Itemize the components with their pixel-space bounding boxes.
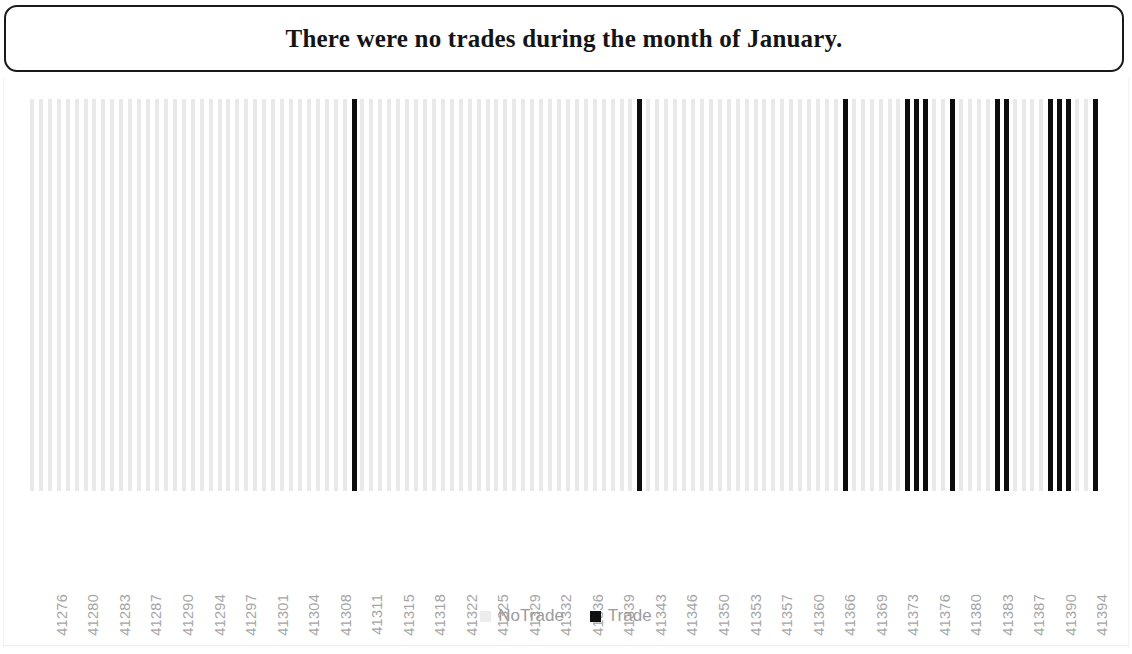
bar-notrade bbox=[932, 99, 936, 491]
bar-notrade bbox=[593, 99, 597, 491]
bar-notrade bbox=[253, 99, 257, 491]
bar-notrade bbox=[226, 99, 230, 491]
bar-notrade bbox=[84, 99, 88, 491]
bar-notrade bbox=[548, 99, 552, 491]
bar-notrade bbox=[736, 99, 740, 491]
bar-notrade bbox=[754, 99, 758, 491]
bar-notrade bbox=[289, 99, 293, 491]
bar-notrade bbox=[780, 99, 784, 491]
bar-notrade bbox=[816, 99, 820, 491]
bar-trade bbox=[637, 99, 642, 491]
bar-notrade bbox=[235, 99, 239, 491]
bar-notrade bbox=[602, 99, 606, 491]
bar-notrade bbox=[48, 99, 52, 491]
bar-notrade bbox=[360, 99, 364, 491]
bar-notrade bbox=[628, 99, 632, 491]
bar-notrade bbox=[727, 99, 731, 491]
bar-notrade bbox=[977, 99, 981, 491]
bar-trade bbox=[843, 99, 848, 491]
bar-notrade bbox=[691, 99, 695, 491]
bar-notrade bbox=[852, 99, 856, 491]
bar-trade bbox=[950, 99, 955, 491]
bar-notrade bbox=[1030, 99, 1034, 491]
legend-swatch-icon bbox=[480, 611, 491, 622]
bar-notrade bbox=[825, 99, 829, 491]
bar-notrade bbox=[486, 99, 490, 491]
bar-notrade bbox=[191, 99, 195, 491]
bar-notrade bbox=[316, 99, 320, 491]
bar-notrade bbox=[137, 99, 141, 491]
bar-notrade bbox=[271, 99, 275, 491]
bar-notrade bbox=[611, 99, 615, 491]
bar-notrade bbox=[807, 99, 811, 491]
bar-notrade bbox=[325, 99, 329, 491]
bar-notrade bbox=[110, 99, 114, 491]
legend-label: NoTrade bbox=[498, 606, 564, 626]
bar-trade bbox=[923, 99, 928, 491]
bar-trade bbox=[995, 99, 1000, 491]
bar-notrade bbox=[101, 99, 105, 491]
bar-notrade bbox=[280, 99, 284, 491]
frame-border-bottom bbox=[3, 645, 1129, 646]
bar-notrade bbox=[762, 99, 766, 491]
bar-trade bbox=[1048, 99, 1053, 491]
frame-border-right bbox=[1128, 78, 1129, 648]
bar-notrade bbox=[771, 99, 775, 491]
bar-notrade bbox=[432, 99, 436, 491]
bar-notrade bbox=[298, 99, 302, 491]
bar-notrade bbox=[92, 99, 96, 491]
bar-notrade bbox=[155, 99, 159, 491]
bar-trade bbox=[905, 99, 910, 491]
bar-notrade bbox=[539, 99, 543, 491]
bar-notrade bbox=[861, 99, 865, 491]
bar-notrade bbox=[459, 99, 463, 491]
bar-notrade bbox=[182, 99, 186, 491]
bar-notrade bbox=[745, 99, 749, 491]
legend-item[interactable]: NoTrade bbox=[480, 606, 564, 626]
chart-title-callout: There were no trades during the month of… bbox=[4, 5, 1124, 72]
bar-notrade bbox=[369, 99, 373, 491]
bar-notrade bbox=[530, 99, 534, 491]
bar-notrade bbox=[646, 99, 650, 491]
bar-notrade bbox=[888, 99, 892, 491]
bar-notrade bbox=[477, 99, 481, 491]
bar-notrade bbox=[119, 99, 123, 491]
bar-trade bbox=[1066, 99, 1071, 491]
chart-legend: NoTradeTrade bbox=[0, 606, 1132, 626]
bar-notrade bbox=[986, 99, 990, 491]
bar-notrade bbox=[682, 99, 686, 491]
bar-notrade bbox=[709, 99, 713, 491]
bar-notrade bbox=[557, 99, 561, 491]
bar-notrade bbox=[343, 99, 347, 491]
bar-notrade bbox=[396, 99, 400, 491]
bar-notrade bbox=[39, 99, 43, 491]
bar-notrade bbox=[655, 99, 659, 491]
bar-trade bbox=[1004, 99, 1009, 491]
bar-notrade bbox=[870, 99, 874, 491]
plot-area bbox=[28, 99, 1100, 491]
bar-notrade bbox=[164, 99, 168, 491]
legend-item[interactable]: Trade bbox=[590, 606, 652, 626]
bar-notrade bbox=[879, 99, 883, 491]
bar-trade bbox=[352, 99, 357, 491]
bar-notrade bbox=[620, 99, 624, 491]
chart-title: There were no trades during the month of… bbox=[286, 25, 843, 53]
bar-notrade bbox=[673, 99, 677, 491]
x-axis-tick-labels: 4127641280412834128741290412944129741301… bbox=[28, 494, 1100, 602]
bar-notrade bbox=[664, 99, 668, 491]
bar-notrade bbox=[30, 99, 34, 491]
bar-notrade bbox=[128, 99, 132, 491]
frame-border-left bbox=[3, 78, 4, 648]
bar-notrade bbox=[414, 99, 418, 491]
bar-notrade bbox=[1075, 99, 1079, 491]
bar-notrade bbox=[378, 99, 382, 491]
bar-notrade bbox=[494, 99, 498, 491]
bar-notrade bbox=[700, 99, 704, 491]
bar-notrade bbox=[1013, 99, 1017, 491]
bar-notrade bbox=[718, 99, 722, 491]
bar-notrade bbox=[75, 99, 79, 491]
bar-notrade bbox=[789, 99, 793, 491]
chart-root: There were no trades during the month of… bbox=[0, 0, 1132, 654]
bar-notrade bbox=[512, 99, 516, 491]
bar-notrade bbox=[468, 99, 472, 491]
